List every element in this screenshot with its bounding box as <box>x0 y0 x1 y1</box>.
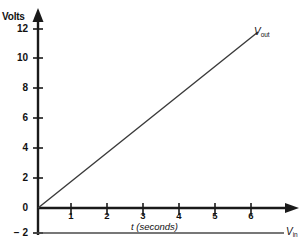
y-tick-label-12: 12 <box>6 24 28 34</box>
series-line-vout <box>38 32 258 208</box>
y-tick-label-6: 6 <box>6 113 28 123</box>
series-label-vin-sub: in <box>293 231 298 238</box>
y-tick-label-2: 2 <box>6 173 28 183</box>
arrow-up-icon <box>33 8 44 22</box>
y-tick-label-0: 0 <box>6 203 28 213</box>
x-tick-label-5: 5 <box>208 211 222 221</box>
chart-figure: Volts 12 10 8 6 4 2 0 − 2 1 2 3 4 5 6 t … <box>0 0 306 250</box>
series-label-vin: Vin <box>286 227 298 237</box>
series-label-vin-text: V <box>286 226 293 237</box>
series-label-vout: Vout <box>254 27 269 37</box>
y-tick-label-4: 4 <box>6 143 28 153</box>
y-tick-label-8: 8 <box>6 83 28 93</box>
x-axis-title: t (seconds) <box>131 222 178 232</box>
x-tick-label-1: 1 <box>64 211 78 221</box>
x-tick-label-3: 3 <box>136 211 150 221</box>
y-tick-label-minus-2: − 2 <box>0 228 28 238</box>
arrow-right-icon <box>285 203 299 213</box>
x-tick-label-2: 2 <box>100 211 114 221</box>
y-axis-title: Volts <box>2 12 25 22</box>
series-label-vout-sub: out <box>261 31 270 38</box>
series-label-vout-text: V <box>254 26 261 37</box>
y-tick-label-10: 10 <box>6 53 28 63</box>
x-tick-label-4: 4 <box>172 211 186 221</box>
x-tick-label-6: 6 <box>244 211 258 221</box>
